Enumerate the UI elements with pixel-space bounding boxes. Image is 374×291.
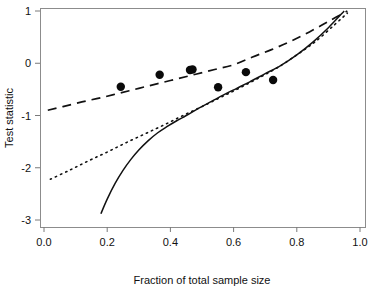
data-point <box>155 71 163 79</box>
y-tick-label: -1 <box>21 110 31 122</box>
y-tick-label: -3 <box>21 214 31 226</box>
figure-background <box>0 0 374 291</box>
data-point <box>117 83 125 91</box>
x-tick-label: 0.4 <box>163 236 178 248</box>
x-axis-label: Fraction of total sample size <box>134 274 271 286</box>
x-tick-label: 0.8 <box>289 236 304 248</box>
scatter-plot: 0.00.20.40.60.81.0 10-1-2-3 Fraction of … <box>0 0 374 291</box>
y-tick-label: -2 <box>21 162 31 174</box>
y-tick-label: 1 <box>25 5 31 17</box>
data-point <box>242 68 250 76</box>
data-point <box>188 65 196 73</box>
data-point <box>214 83 222 91</box>
x-tick-label: 0.6 <box>226 236 241 248</box>
y-axis-label: Test statistic <box>3 88 15 148</box>
x-tick-label: 1.0 <box>352 236 367 248</box>
y-tick-label: 0 <box>25 57 31 69</box>
data-point <box>269 76 277 84</box>
x-tick-label: 0.2 <box>100 236 115 248</box>
x-tick-label: 0.0 <box>36 236 51 248</box>
